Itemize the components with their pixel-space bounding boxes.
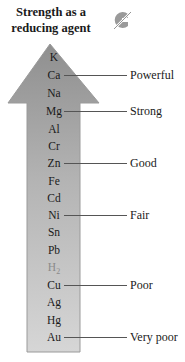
element-symbol: Sn (48, 226, 60, 238)
element-sn: Sn (27, 225, 81, 239)
level-label-very-poor: Very poor (130, 330, 178, 344)
level-label-strong: Strong (130, 104, 162, 118)
element-al: Al (27, 122, 81, 136)
element-symbol: Hg (47, 314, 61, 326)
element-k: K (27, 50, 81, 64)
element-symbol: Au (47, 331, 61, 343)
element-symbol: Ni (48, 209, 60, 221)
leader-line-good (64, 163, 127, 164)
element-symbol: Zn (48, 157, 61, 169)
level-label-fair: Fair (130, 208, 149, 222)
element-symbol: Cr (48, 140, 60, 152)
element-symbol: H (48, 261, 56, 273)
element-symbol: Ag (47, 296, 61, 308)
element-symbol: Fe (48, 175, 60, 187)
element-symbol: Al (48, 123, 60, 135)
element-subscript: 2 (56, 267, 60, 276)
leader-line-fair (64, 215, 127, 216)
element-symbol: Na (47, 87, 60, 99)
element-na: Na (27, 86, 81, 100)
element-cd: Cd (27, 191, 81, 205)
element-cr: Cr (27, 139, 81, 153)
leader-line-very-poor (64, 337, 127, 338)
element-symbol: Cd (47, 192, 60, 204)
leader-line-powerful (64, 75, 127, 76)
element-symbol: Mg (46, 105, 62, 117)
level-label-poor: Poor (130, 278, 153, 292)
element-hg: Hg (27, 313, 81, 327)
element-fe: Fe (27, 174, 81, 188)
level-label-good: Good (130, 156, 157, 170)
element-symbol: Pb (48, 244, 60, 256)
element-h2: H2 (27, 260, 81, 274)
element-symbol: Cu (47, 279, 60, 291)
element-pb: Pb (27, 243, 81, 257)
leader-line-strong (64, 111, 127, 112)
element-symbol: K (50, 51, 58, 63)
leader-line-poor (64, 285, 127, 286)
element-symbol: Ca (48, 69, 61, 81)
level-label-powerful: Powerful (130, 68, 174, 82)
element-ag: Ag (27, 295, 81, 309)
